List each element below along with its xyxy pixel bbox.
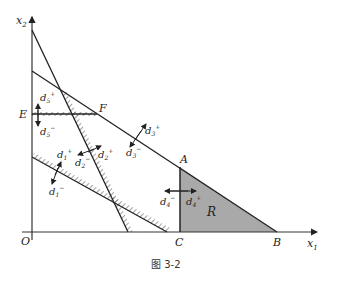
point-f-label: F [98,102,107,115]
figure-caption: 图 3-2 [151,259,181,270]
d3-plus-label: d3+ [145,123,160,137]
region-r-label: R [206,205,216,219]
point-b-label: B [272,236,281,249]
d5-plus-label: d5+ [40,90,55,104]
d2-minus-label: d2− [75,155,90,169]
d5-minus-label: d5− [40,124,55,138]
d3-minus-label: d3− [126,145,141,159]
d1-minus-label: d1− [49,184,64,198]
point-e-label: E [18,108,27,121]
point-a-label: A [179,153,188,166]
point-c-label: C [175,236,184,249]
d4-minus-label: d4− [160,194,175,208]
d2-plus-label: d2+ [98,147,113,161]
d1-plus-label: d1+ [57,147,72,161]
goal-programming-diagram: x2 x1 O E F A C B R d5+ d5− d3+ d3− d2+ … [0,0,337,289]
y-axis-label: x2 [16,14,27,29]
x-axis-label: x1 [307,237,318,252]
origin-label: O [21,235,30,248]
